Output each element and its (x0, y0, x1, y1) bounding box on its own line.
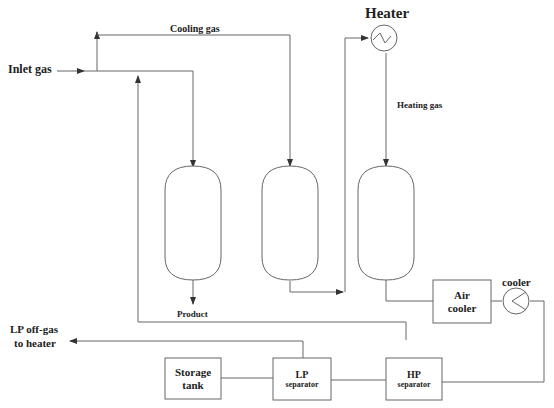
lp-separator-label: LP separator (273, 358, 331, 400)
air-cooler-label: Air cooler (433, 280, 491, 323)
vessel2-outlet-line (290, 281, 343, 292)
cooler-label: cooler (502, 276, 531, 288)
heater-label: Heater (365, 5, 409, 22)
lp-offgas-label-line2: to heater (14, 337, 56, 349)
storage-tank-label: Storage tank (165, 358, 221, 399)
lp-separator-label-line1: LP (296, 369, 309, 381)
hp-separator-label-line2: separator (398, 380, 431, 389)
lp-offgas-label-line1: LP off-gas (10, 323, 58, 335)
cooler-icon (503, 288, 529, 314)
air-cooler-label-line2: cooler (448, 302, 477, 315)
product-label: Product (177, 310, 208, 320)
heater-icon (371, 25, 397, 51)
air-cooler-label-line1: Air (454, 289, 470, 302)
hp-separator-label: HP separator (386, 358, 442, 400)
vessel3-to-aircooler-line (386, 280, 433, 301)
hp-separator-label-line1: HP (407, 369, 421, 381)
inlet-gas-label: Inlet gas (8, 63, 52, 76)
process-flow-canvas (0, 0, 554, 408)
storage-tank-label-line2: tank (182, 379, 203, 392)
cooling-gas-label: Cooling gas (170, 23, 220, 34)
vessel-1 (165, 166, 221, 280)
lp-separator-label-line2: separator (286, 380, 319, 389)
vessel-2 (262, 166, 318, 280)
vessel-3 (358, 166, 414, 280)
heating-gas-label: Heating gas (397, 101, 442, 111)
storage-tank-label-line1: Storage (175, 366, 211, 379)
